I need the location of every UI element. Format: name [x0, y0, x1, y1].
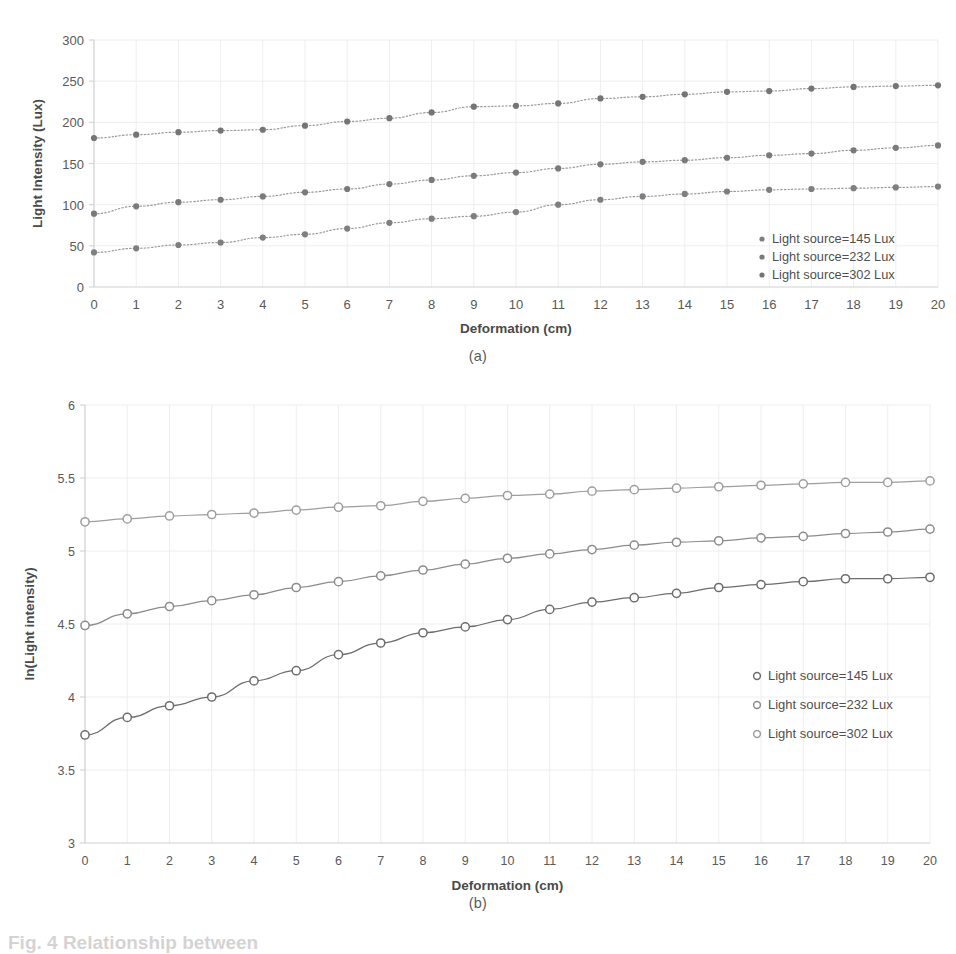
data-point — [471, 213, 477, 219]
chart-b-root: 33.544.555.56012345678910111213141516171… — [22, 399, 937, 893]
data-point — [513, 103, 519, 109]
data-point — [133, 132, 139, 138]
x-axis-title: Deformation (cm) — [460, 321, 572, 336]
data-point — [302, 189, 308, 195]
x-tick-label: 16 — [762, 297, 776, 312]
data-point — [175, 199, 181, 205]
x-tick-label: 11 — [551, 297, 565, 312]
legend-marker — [754, 673, 761, 680]
data-point — [588, 598, 596, 606]
data-point — [461, 560, 469, 568]
data-point — [672, 589, 680, 597]
data-point — [926, 573, 934, 581]
data-point — [334, 578, 342, 586]
panel-b-caption: (b) — [0, 895, 956, 911]
x-tick-label: 13 — [635, 297, 649, 312]
data-point — [597, 197, 603, 203]
data-point — [260, 127, 266, 133]
data-point — [81, 518, 89, 526]
data-point — [123, 713, 131, 721]
y-tick-label: 3.5 — [58, 764, 75, 778]
legend-marker — [759, 254, 764, 259]
x-tick-label: 14 — [678, 297, 692, 312]
data-point — [377, 572, 385, 580]
x-tick-label: 4 — [251, 854, 258, 868]
data-point — [471, 173, 477, 179]
data-point — [799, 578, 807, 586]
data-point — [165, 602, 173, 610]
data-point — [429, 109, 435, 115]
data-point — [513, 209, 519, 215]
data-point — [123, 610, 131, 618]
data-point — [91, 135, 97, 141]
x-tick-label: 20 — [923, 854, 937, 868]
data-point — [799, 480, 807, 488]
data-point — [588, 487, 596, 495]
data-point — [841, 575, 849, 583]
x-tick-label: 17 — [796, 854, 810, 868]
x-tick-label: 8 — [420, 854, 427, 868]
data-point — [841, 529, 849, 537]
x-tick-label: 6 — [335, 854, 342, 868]
data-point — [884, 478, 892, 486]
y-tick-label: 200 — [62, 115, 84, 130]
data-point — [893, 83, 899, 89]
chart-b-svg: 33.544.555.56012345678910111213141516171… — [0, 380, 956, 920]
data-point — [672, 484, 680, 492]
data-point — [555, 100, 561, 106]
data-point — [630, 594, 638, 602]
data-point — [503, 491, 511, 499]
data-point — [935, 82, 941, 88]
data-point — [175, 129, 181, 135]
data-point — [935, 183, 941, 189]
data-point — [81, 621, 89, 629]
data-point — [250, 591, 258, 599]
x-tick-label: 18 — [839, 854, 853, 868]
data-point — [546, 490, 554, 498]
y-tick-label: 250 — [62, 74, 84, 89]
data-point — [377, 502, 385, 510]
data-point — [597, 95, 603, 101]
data-point — [757, 580, 765, 588]
data-point — [419, 566, 427, 574]
x-tick-label: 12 — [593, 297, 607, 312]
y-tick-label: 4.5 — [58, 618, 75, 632]
x-tick-label: 9 — [462, 854, 469, 868]
data-point — [884, 528, 892, 536]
legend-marker — [759, 272, 764, 277]
data-point — [682, 191, 688, 197]
x-tick-label: 4 — [259, 297, 266, 312]
y-tick-label: 300 — [62, 33, 84, 48]
x-tick-label: 15 — [720, 297, 734, 312]
data-point — [208, 693, 216, 701]
data-point — [630, 486, 638, 494]
data-point — [715, 483, 723, 491]
data-point — [893, 145, 899, 151]
data-point — [334, 651, 342, 659]
y-axis-title: Light Intensity (Lux) — [30, 99, 45, 228]
data-point — [926, 525, 934, 533]
x-tick-label: 17 — [804, 297, 818, 312]
data-point — [555, 202, 561, 208]
data-point — [682, 91, 688, 97]
y-tick-label: 50 — [70, 239, 84, 254]
data-point — [386, 115, 392, 121]
x-tick-label: 9 — [470, 297, 477, 312]
data-point — [715, 537, 723, 545]
data-point — [334, 503, 342, 511]
data-point — [640, 159, 646, 165]
data-point — [218, 197, 224, 203]
x-tick-label: 2 — [166, 854, 173, 868]
x-tick-label: 0 — [90, 297, 97, 312]
x-tick-label: 5 — [293, 854, 300, 868]
data-point — [133, 203, 139, 209]
data-point — [250, 509, 258, 517]
data-point — [218, 127, 224, 133]
data-point — [165, 702, 173, 710]
data-point — [513, 169, 519, 175]
data-point — [682, 157, 688, 163]
x-tick-label: 1 — [124, 854, 131, 868]
chart-panel-a: 0501001502002503000123456789101112131415… — [0, 0, 956, 380]
legend-marker — [754, 731, 761, 738]
data-point — [893, 184, 899, 190]
